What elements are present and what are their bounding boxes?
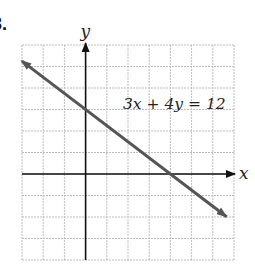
equation-line <box>22 61 227 217</box>
y-axis-label: y <box>80 21 91 41</box>
equation-label: 3x + 4y = 12 <box>123 95 226 113</box>
grid-lines <box>22 45 234 260</box>
equation-line-path <box>22 61 227 217</box>
x-axis-label: x <box>239 163 249 183</box>
coordinate-plane-graph: x y 3x + 4y = 12 <box>0 0 255 273</box>
